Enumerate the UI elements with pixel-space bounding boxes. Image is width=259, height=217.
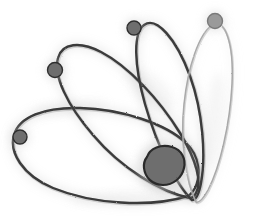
electron-top-right-body xyxy=(208,14,223,29)
nucleus-layer xyxy=(138,141,190,191)
electron-top-body xyxy=(127,21,141,35)
electron-left-body xyxy=(13,130,27,144)
atom-diagram xyxy=(0,0,259,217)
nucleus xyxy=(144,146,185,185)
electron-upper-left xyxy=(45,60,65,80)
atom-sketch-canvas: Atom A rough pencil sketch of an atom: f… xyxy=(0,0,259,217)
electron-upper-left-body xyxy=(48,63,63,78)
electron-top-right xyxy=(205,11,225,31)
electron-top xyxy=(125,19,144,38)
electron-left xyxy=(11,128,30,147)
